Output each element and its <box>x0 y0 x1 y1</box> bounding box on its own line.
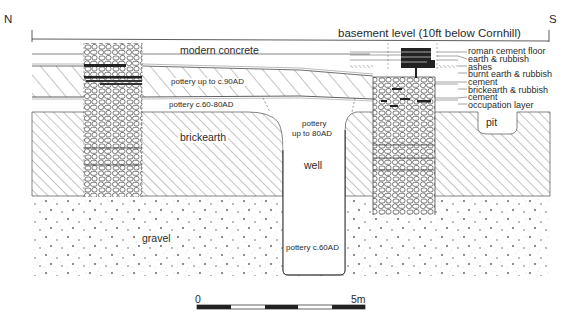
gravel-label: gravel <box>140 233 173 244</box>
pottery-60-80ad-label: pottery c.60-80AD <box>169 101 233 109</box>
scale-bar <box>197 305 365 309</box>
scale-start-label: 0 <box>195 294 201 305</box>
basement-level-label: basement level (10ft below Cornhill) <box>338 28 521 40</box>
legend-leaders <box>458 52 467 104</box>
brickearth-label: brickearth <box>178 132 228 143</box>
well-upper-fill-label-1: pottery <box>302 120 326 128</box>
well-label: well <box>304 160 322 171</box>
modern-concrete-label: modern concrete <box>180 45 259 56</box>
left-masonry-wall <box>84 43 142 197</box>
north-label: N <box>4 14 12 26</box>
well-lower-fill-label: pottery c.60AD <box>286 244 339 252</box>
well-upper-fill-label-2: up to 80AD <box>292 130 332 138</box>
scale-end-label: 5m <box>351 294 366 305</box>
legend-item: occupation layer <box>468 101 534 110</box>
pottery-90ad-label: pottery up to c.90AD <box>169 78 246 86</box>
archaeological-section-diagram: N S basement level (10ft below Cornhill)… <box>0 0 583 326</box>
brickearth-layer-left <box>32 112 283 196</box>
pit-label: pit <box>486 117 497 128</box>
south-label: S <box>549 14 557 26</box>
